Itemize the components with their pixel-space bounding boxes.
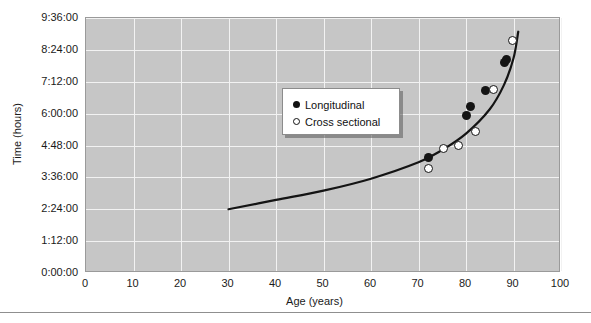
- x-axis-tick-label: 70: [398, 278, 438, 289]
- x-axis-tick-labels: 0102030405060708090100: [0, 0, 591, 323]
- x-axis-tick-label: 0: [65, 278, 105, 289]
- x-axis-tick-label: 60: [350, 278, 390, 289]
- x-axis-tick-label: 90: [493, 278, 533, 289]
- x-axis-tick-label: 80: [445, 278, 485, 289]
- x-axis-tick-label: 50: [303, 278, 343, 289]
- y-axis-title: Time (hours): [11, 74, 23, 194]
- bottom-divider: [0, 312, 591, 313]
- chart-figure: Longitudinal Cross sectional 9:36:008:24…: [0, 0, 591, 323]
- x-axis-title: Age (years): [286, 295, 343, 307]
- x-axis-tick-label: 10: [113, 278, 153, 289]
- x-axis-tick-label: 40: [255, 278, 295, 289]
- x-axis-tick-label: 30: [208, 278, 248, 289]
- x-axis-title-wrap: Age (years): [0, 295, 591, 307]
- x-axis-tick-label: 100: [540, 278, 580, 289]
- x-axis-tick-label: 20: [160, 278, 200, 289]
